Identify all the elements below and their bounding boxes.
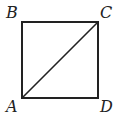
vertex-label-c: C (100, 3, 112, 22)
vertex-label-b: B (5, 3, 18, 22)
square-diagram: B C A D (0, 0, 116, 119)
vertex-label-d: D (99, 97, 113, 116)
vertex-label-a: A (4, 97, 18, 116)
diagonal-ac (22, 22, 98, 98)
